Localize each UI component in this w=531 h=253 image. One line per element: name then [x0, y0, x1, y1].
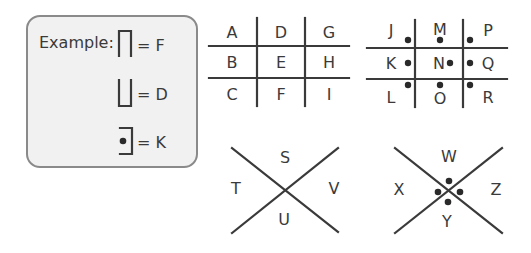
grid-letter: C — [226, 87, 237, 103]
grid-letter: K — [386, 56, 397, 72]
example-glyph-d-icon — [119, 80, 131, 106]
grid-letter: M — [433, 22, 447, 38]
x-letter-bottom: Y — [442, 214, 452, 230]
x-letter-left: T — [231, 181, 241, 197]
grid-letter: P — [483, 23, 493, 39]
grid-letter: O — [434, 91, 447, 107]
grid-letter: D — [275, 25, 287, 41]
grid-letter: H — [323, 55, 335, 71]
x-letter-top: W — [441, 149, 457, 165]
grid-letter: J — [389, 23, 394, 39]
example-k-dot-icon — [120, 138, 127, 145]
grid-letter: L — [387, 90, 396, 106]
x-letter-top: S — [280, 150, 290, 166]
grid-letter: N — [433, 56, 445, 72]
x-letter-right: V — [329, 181, 340, 197]
grid-letter: E — [276, 55, 286, 71]
x-letter-left: X — [394, 182, 405, 198]
x-letter-right: Z — [491, 182, 502, 198]
grid-letter: F — [276, 87, 285, 103]
grid-letter: B — [227, 55, 238, 71]
grid-letter: Q — [482, 56, 495, 72]
grid-letter: R — [482, 90, 493, 106]
grid-letter: A — [227, 25, 238, 41]
grid-letter: G — [323, 25, 335, 41]
example-glyph-f-icon — [119, 31, 131, 56]
x-letter-bottom: U — [278, 212, 290, 228]
grid-letter: I — [327, 87, 332, 103]
